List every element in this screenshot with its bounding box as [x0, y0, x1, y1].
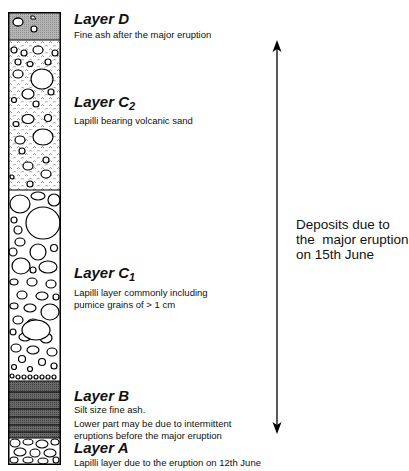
layer-d-title: Layer D	[74, 11, 211, 27]
layer-b-fill	[8, 381, 61, 438]
layer-d-label: Layer D Fine ash after the major eruptio…	[74, 11, 211, 41]
layer-c2-fill	[8, 40, 61, 190]
layer-b-title: Layer B	[74, 388, 231, 404]
layer-c2-description: Lapilli bearing volcanic sand	[74, 115, 193, 127]
layer-d-description: Fine ash after the major eruption	[74, 29, 211, 41]
layer-b-label: Layer B Silt size fine ash. Lower part m…	[74, 388, 231, 442]
layer-b-description-line1: Silt size fine ash.	[74, 404, 231, 416]
layer-c1-title: Layer C1	[74, 265, 208, 285]
layer-c2-label: Layer C2 Lapilli bearing volcanic sand	[74, 94, 193, 127]
layer-a-label: Layer A Lapilli layer due to the eruptio…	[74, 440, 261, 469]
layer-c1-fill	[8, 190, 61, 381]
note-line1: Deposits due to	[296, 217, 409, 232]
double-arrow-icon	[270, 40, 284, 434]
layer-b-description-line2: Lower part may be due to intermittent	[74, 418, 231, 430]
major-eruption-note: Deposits due to the major eruption on 15…	[296, 217, 409, 262]
layer-c1-label: Layer C1 Lapilli layer commonly includin…	[74, 265, 208, 311]
layer-d-fill	[8, 12, 61, 40]
layer-c2-title: Layer C2	[74, 94, 193, 114]
stratigraphic-column	[8, 12, 61, 465]
layer-a-title: Layer A	[74, 440, 261, 456]
note-line2: the major eruption	[296, 232, 409, 247]
layer-a-fill	[8, 438, 61, 465]
layer-c1-description-line2: pumice grains of > 1 cm	[74, 299, 208, 311]
layer-c1-description-line1: Lapilli layer commonly including	[74, 287, 208, 299]
layer-a-description: Lapilli layer due to the eruption on 12t…	[74, 457, 261, 469]
note-line3: on 15th June	[296, 247, 409, 262]
